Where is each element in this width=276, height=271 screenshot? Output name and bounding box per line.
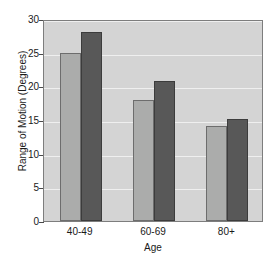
x-axis-title: Age: [43, 242, 263, 254]
bar[interactable]: [133, 100, 154, 221]
bar-group: [133, 21, 175, 221]
y-axis-tick-label: 10: [22, 150, 39, 160]
x-axis-tick-label: 60-69: [140, 226, 166, 238]
x-axis-tick-labels: 40-4960-6980+: [43, 226, 263, 240]
bar-group: [60, 21, 102, 221]
plot-area: [43, 20, 263, 222]
y-axis-tick-labels: 051015202530: [22, 20, 39, 222]
bar[interactable]: [206, 126, 227, 221]
y-axis-tick-label: 20: [22, 82, 39, 92]
bars-layer: [44, 21, 262, 221]
bar[interactable]: [60, 53, 81, 221]
y-axis-tick-label: 25: [22, 49, 39, 59]
y-axis-tick-label: 5: [22, 183, 39, 193]
y-axis-tick-label: 30: [22, 15, 39, 25]
bar[interactable]: [154, 81, 175, 221]
y-axis-tick-label: 15: [22, 116, 39, 126]
x-axis-tick-label: 80+: [218, 226, 235, 238]
x-axis-tick-label: 40-49: [67, 226, 93, 238]
y-axis-tick-label: 0: [22, 217, 39, 227]
bar[interactable]: [227, 119, 248, 221]
bar-group: [206, 21, 248, 221]
bar-chart: Range of Motion (Degrees) 051015202530 4…: [0, 0, 276, 271]
y-axis-tick-mark: [39, 222, 44, 223]
bar[interactable]: [81, 32, 102, 221]
